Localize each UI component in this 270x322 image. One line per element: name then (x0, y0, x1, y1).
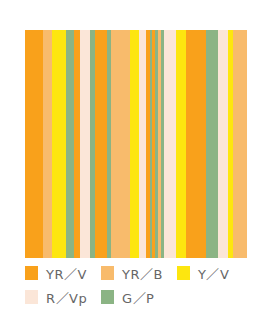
stripe (66, 30, 74, 258)
stripe (80, 30, 90, 258)
legend-swatch (25, 266, 38, 280)
legend-swatch (101, 266, 114, 280)
legend-item-yr-b: YR／B (101, 264, 163, 282)
legend-label: G／P (122, 288, 154, 307)
stripe (25, 30, 43, 258)
stripe (164, 30, 176, 258)
stripe (43, 30, 52, 258)
legend-label: YR／B (122, 264, 163, 283)
legend-item-g-p: G／P (101, 288, 154, 306)
stripe (233, 30, 247, 258)
stripe (186, 30, 206, 258)
legend-item-y-v: Y／V (177, 264, 229, 282)
stripe (130, 30, 139, 258)
legend-label: Y／V (198, 264, 229, 283)
legend-label: R／Vp (46, 288, 87, 307)
legend-item-yr-v: YR／V (25, 264, 87, 282)
stripe (206, 30, 218, 258)
legend-swatch (177, 266, 190, 280)
color-stripe-pattern (25, 30, 247, 258)
stripe (52, 30, 66, 258)
stripe (111, 30, 130, 258)
legend-swatch (101, 290, 114, 304)
stripe (95, 30, 107, 258)
stripe (176, 30, 186, 258)
legend-item-r-vp: R／Vp (25, 288, 87, 306)
stripe (218, 30, 228, 258)
legend-swatch (25, 290, 38, 304)
legend-label: YR／V (46, 264, 87, 283)
stripe (139, 30, 146, 258)
